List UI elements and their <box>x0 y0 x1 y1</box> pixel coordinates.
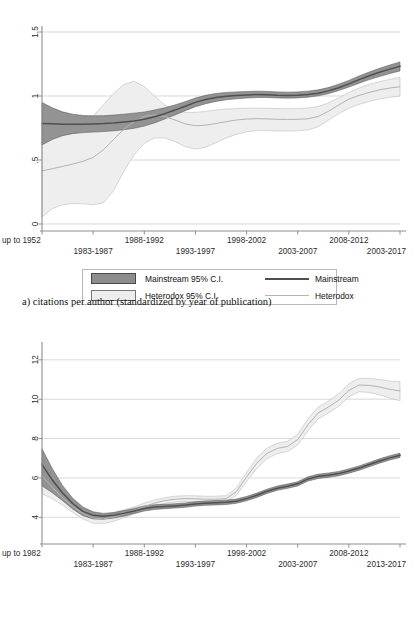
x-tick-label: 1983-1987 <box>74 560 114 569</box>
y-tick-label: 1 <box>31 93 40 98</box>
x-tick-label: 2003-2007 <box>278 560 318 569</box>
legend-label-heterodox: Heterodox <box>315 291 359 301</box>
x-tick-label: 1983-1987 <box>74 247 114 256</box>
figure-b-citations-per-author: 4681012up to 19821983-19871988-19921993-… <box>0 318 418 623</box>
x-tick-label: 1998-2002 <box>227 236 267 245</box>
x-tick-label: up to 1982 <box>2 549 41 558</box>
y-tick-label: 0 <box>31 221 40 226</box>
chart-a-svg: 0.511.5up to 19521983-19871988-19921993-… <box>0 0 418 265</box>
y-tick-label: 4 <box>31 515 40 520</box>
legend-swatch-mainstream-ci <box>91 273 136 284</box>
chart-b-plot-area: 4681012up to 19821983-19871988-19921993-… <box>0 318 418 576</box>
x-tick-label: 1988-1992 <box>125 549 165 558</box>
x-tick-label: 2008-2012 <box>329 236 369 245</box>
line-mainstream <box>42 455 400 516</box>
x-tick-label: 1988-1992 <box>125 236 165 245</box>
chart-b-svg: 4681012up to 19821983-19871988-19921993-… <box>0 318 418 576</box>
figure-a-caption: a) citations per author (standardized by… <box>22 296 272 307</box>
y-tick-label: 12 <box>31 355 40 365</box>
ci-band-mainstream <box>42 449 400 519</box>
y-tick-label: 1.5 <box>31 26 40 38</box>
x-tick-label: 2003-2017 <box>367 247 407 256</box>
y-tick-label: 8 <box>31 436 40 441</box>
x-tick-label: 2008-2012 <box>329 549 369 558</box>
x-tick-label: 1993-1997 <box>176 560 216 569</box>
line-heterodox <box>42 385 400 519</box>
x-tick-label: 1993-1997 <box>176 247 216 256</box>
x-tick-label: up to 1952 <box>2 236 41 245</box>
x-tick-label: 2003-2007 <box>278 247 318 256</box>
figure-a-citations-per-author: 0.511.5up to 19521983-19871988-19921993-… <box>0 0 418 311</box>
x-tick-label: 1998-2002 <box>227 549 267 558</box>
x-tick-label: 2013-2017 <box>367 560 407 569</box>
legend-label-mainstream: Mainstream <box>315 274 359 284</box>
legend-label-mainstream-ci: Mainstream 95% C.I. <box>145 274 263 284</box>
y-tick-label: 6 <box>31 475 40 480</box>
y-tick-label: .5 <box>31 156 40 163</box>
y-tick-label: 10 <box>31 394 40 404</box>
legend-line-mainstream <box>263 273 315 284</box>
chart-a-plot-area: 0.511.5up to 19521983-19871988-19921993-… <box>0 0 418 265</box>
